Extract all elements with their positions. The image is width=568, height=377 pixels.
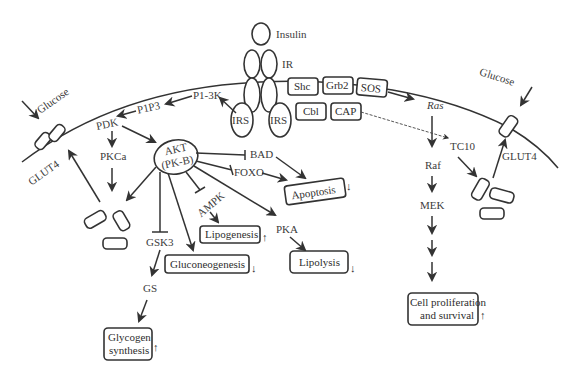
- glut4-vesicles-right: [470, 177, 515, 219]
- tc10-label: TC10: [450, 140, 476, 152]
- arrow-akt-glut4-vesicles: [127, 167, 156, 200]
- glut4-right-label: GLUT4: [502, 150, 537, 162]
- lipolysis-direction-icon: ↓: [350, 262, 356, 274]
- arrow-glucose-left: [22, 101, 38, 118]
- gluconeogenesis-direction-icon: ↓: [251, 262, 257, 274]
- outcome-lipolysis: Lipolysis ↓: [290, 251, 356, 274]
- insulin-molecule: [252, 23, 270, 45]
- arrow-pdk-akt: [122, 126, 155, 142]
- glucose-left-label: Glucose: [35, 85, 72, 116]
- ir-subunit-right: [261, 50, 277, 78]
- irs-right-label: IRS: [270, 114, 287, 126]
- lipogenesis-direction-icon: ↑: [262, 231, 268, 243]
- arrow-vesicle-to-membrane-left: [69, 151, 100, 202]
- irs-left-label: IRS: [232, 114, 249, 126]
- mek-label: MEK: [420, 199, 445, 211]
- ampk-label: AMPK: [195, 189, 227, 219]
- gsk3-label: GSK3: [146, 236, 174, 248]
- outcome-cell-proliferation: Cell proliferation and survival ↑: [408, 293, 487, 325]
- arrow-gs-glycogen: [139, 300, 147, 321]
- arrow-cap-tc10: [361, 112, 448, 138]
- arrow-ampk-lipogenesis: [210, 212, 218, 222]
- cell-prolif-label-line2: and survival: [420, 309, 474, 321]
- inhibit-bar-ampk: [195, 187, 205, 193]
- arrow-foxo-apoptosis: [262, 173, 286, 180]
- arrow-pka-lipolysis: [290, 237, 305, 250]
- pka-label: PKA: [276, 223, 298, 235]
- lipogenesis-label: Lipogenesis: [205, 228, 258, 240]
- cap-label: CAP: [335, 105, 356, 117]
- outcome-apoptosis: Apoptosis ↓: [284, 178, 351, 205]
- arrow-pi3k-pip3: [166, 96, 192, 104]
- grb2-label: Grb2: [326, 79, 349, 91]
- pdk-label: PDK: [95, 116, 119, 132]
- outcome-gluconeogenesis: Gluconeogenesis ↓: [165, 255, 257, 274]
- ir-subunit-left: [244, 50, 260, 78]
- sos-label: SOS: [360, 81, 381, 95]
- lipolysis-label: Lipolysis: [299, 256, 340, 268]
- glycogen-label-line1: Glycogen: [108, 331, 151, 343]
- cbl-label: Cbl: [303, 105, 319, 117]
- bad-label: BAD: [250, 148, 273, 160]
- inhibit-akt-bad: [196, 153, 245, 155]
- raf-label: Raf: [425, 159, 441, 171]
- glycogen-label-line2: synthesis: [109, 344, 149, 356]
- arrow-irs-pi3k: [220, 98, 236, 113]
- cell-prolif-label-line1: Cell proliferation: [410, 296, 487, 308]
- pkca-label: PKCa: [100, 150, 126, 162]
- shc-label: Shc: [294, 80, 311, 92]
- cell-prolif-direction-icon: ↑: [480, 309, 486, 321]
- ir-label: IR: [282, 58, 294, 70]
- glut4-left-label: GLUT4: [26, 157, 62, 187]
- glut4-membrane-left: [33, 123, 66, 151]
- glut4-vesicles-left: [83, 209, 131, 249]
- gs-label: GS: [143, 282, 157, 294]
- outcome-glycogen-synthesis: Glycogen synthesis ↑: [104, 328, 159, 360]
- arrow-bad-apoptosis: [276, 157, 305, 178]
- insulin-label: Insulin: [276, 28, 307, 40]
- arrow-glucose-right: [521, 87, 532, 105]
- ras-label: Ras: [426, 99, 444, 111]
- inhibit-akt-ampk: [186, 172, 200, 190]
- glut4-membrane-right: [498, 114, 520, 138]
- pi3k-label: P1-3K: [193, 89, 222, 101]
- gluconeogenesis-label: Gluconeogenesis: [170, 258, 245, 270]
- outcome-lipogenesis: Lipogenesis ↑: [200, 226, 268, 243]
- foxo-label: FOXO: [234, 166, 264, 178]
- insulin-signaling-diagram: Insulin IR IRS IRS Shc Grb2 SOS Cbl CAP …: [0, 0, 568, 377]
- inhibit-akt-foxo: [196, 161, 232, 170]
- arrow-pip3-pdk: [118, 111, 136, 116]
- arrow-tc10-vesicles: [458, 157, 476, 176]
- arrow-gsk3-gs: [152, 250, 160, 275]
- glucose-right-label: Glucose: [478, 65, 516, 88]
- glycogen-direction-icon: ↑: [153, 341, 159, 353]
- apoptosis-direction-icon: ↓: [346, 180, 352, 192]
